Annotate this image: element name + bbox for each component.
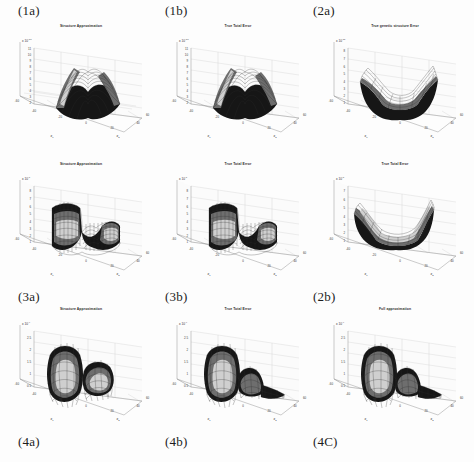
svg-text:-20: -20 [372,115,377,119]
plot-title-4a: Structure Approximation [2,307,160,311]
axes-svg-1b: 11 10 9 8 7 6 5 4 3 2 -60 -40 -20 0 [173,42,309,142]
svg-text:60: 60 [146,113,150,117]
axes-4a: 2.5 2 1.5 1 0.5 -60 -40 -20 0 20 40 60 x… [16,325,152,425]
svg-text:-40: -40 [189,247,194,251]
axes-walls [334,180,456,270]
exp-power: -4 [185,321,187,324]
exp-power: -10 [28,38,31,41]
svg-text:-40: -40 [346,392,351,396]
plot-title-3b: True Total Error [159,162,317,166]
svg-text:10: 10 [185,53,189,57]
svg-text:x1: x1 [50,272,55,276]
svg-text:40: 40 [293,259,297,263]
svg-text:-40: -40 [32,247,37,251]
svg-text:0: 0 [399,259,401,263]
exp-power: -8 [342,176,344,179]
svg-text:40: 40 [293,404,297,408]
svg-text:x2: x2 [430,134,435,138]
axes-3b: 8 7 6 5 4 3 2 1 -60 -40 -20 0 20 40 [173,180,309,280]
exp-power: -7 [28,176,30,179]
svg-text:x1: x1 [207,272,212,276]
svg-text:0: 0 [242,259,244,263]
axes-2a: 8 7 6 5 4 3 2 1 -60 -40 -20 0 20 40 [330,42,466,142]
svg-text:-20: -20 [372,398,377,402]
plot-cell-4a[interactable]: Structure Approximation x 10-4 [2,305,160,442]
svg-text:-40: -40 [32,109,37,113]
svg-text:0: 0 [85,404,87,408]
axes-svg-3b: 8 7 6 5 4 3 2 1 -60 -40 -20 0 20 40 [173,180,309,280]
svg-text:x1: x1 [207,417,212,421]
svg-text:x1: x1 [364,134,369,138]
svg-text:60: 60 [146,251,150,255]
svg-text:60: 60 [146,396,150,400]
svg-text:x1: x1 [364,417,369,421]
svg-text:-40: -40 [346,109,351,113]
svg-text:x2: x2 [116,417,121,421]
plot-cell-2a[interactable]: True genetic structure Error x 10-11 [316,22,474,159]
svg-text:0: 0 [242,121,244,125]
axes-svg-2a: 8 7 6 5 4 3 2 1 -60 -40 -20 0 20 40 [330,42,466,142]
svg-text:-20: -20 [58,398,63,402]
svg-text:x1: x1 [50,134,55,138]
svg-text:60: 60 [460,113,464,117]
axes-svg-1a: 11 10 9 8 7 6 5 4 3 2 -60 -40 -20 0 [16,42,152,142]
svg-text:40: 40 [450,259,454,263]
plot-cell-4b[interactable]: True Total Error x 10-4 [159,305,317,442]
svg-text:11: 11 [28,47,31,51]
axes-4b: 2.5 2 1.5 1 0.5 -60 -40 -20 0 20 40 60 x… [173,325,309,425]
svg-text:-20: -20 [372,253,377,257]
svg-text:40: 40 [450,404,454,408]
plot-title-1a: Structure Approximation [2,24,160,28]
svg-text:x1: x1 [207,134,212,138]
plot-cell-1b[interactable]: True Total Error x 10-10 [159,22,317,159]
plot-title-3a: Structure Approximation [2,162,160,166]
svg-text:x2: x2 [273,134,278,138]
svg-text:x1: x1 [364,272,369,276]
svg-text:x1: x1 [50,417,55,421]
svg-text:x2: x2 [430,417,435,421]
svg-text:20: 20 [110,126,114,130]
svg-text:-60: -60 [329,382,334,386]
svg-text:60: 60 [303,396,307,400]
axes-svg-4c: 2.5 2 1.5 1 0.5 -60 -40 -20 0 20 40 60 x… [330,325,466,425]
svg-text:1.5: 1.5 [341,360,345,364]
svg-text:20: 20 [110,264,114,268]
svg-text:-40: -40 [189,392,194,396]
svg-text:0: 0 [399,404,401,408]
svg-text:2.5: 2.5 [184,336,188,340]
svg-text:60: 60 [460,251,464,255]
svg-text:1: 1 [29,240,31,244]
svg-text:0.5: 0.5 [341,384,345,388]
svg-text:20: 20 [424,264,428,268]
svg-text:0: 0 [399,121,401,125]
svg-text:x2: x2 [273,272,278,276]
svg-text:0.5: 0.5 [184,384,188,388]
svg-text:20: 20 [267,126,271,130]
svg-text:-60: -60 [15,99,20,103]
svg-text:40: 40 [136,259,140,263]
plot-cell-4c[interactable]: Full approximation x 10-4 [316,305,474,442]
svg-text:60: 60 [303,251,307,255]
plot-title-4c: Full approximation [316,307,474,311]
svg-text:60: 60 [460,396,464,400]
exp-power: -10 [185,38,188,41]
svg-text:0: 0 [85,121,87,125]
exp-power: -11 [342,38,345,41]
plot-cell-1a[interactable]: Structure Approximation x 10-10 [2,22,160,159]
svg-text:2.5: 2.5 [27,336,31,340]
plot-cell-3b[interactable]: True Total Error x 10-7 [159,160,317,297]
svg-text:x2: x2 [430,272,435,276]
axes-svg-4a: 2.5 2 1.5 1 0.5 -60 -40 -20 0 20 40 60 x… [16,325,152,425]
svg-text:x2: x2 [116,134,121,138]
plot-grid: Structure Approximation x 10-10 [0,0,474,462]
svg-text:-20: -20 [58,115,63,119]
plot-cell-3a[interactable]: Structure Approximation x 10-7 [2,160,160,297]
exp-power: -4 [28,321,30,324]
svg-text:40: 40 [136,121,140,125]
exp-power: -4 [342,321,344,324]
plot-title-2a: True genetic structure Error [316,24,474,28]
svg-text:-60: -60 [329,99,334,103]
svg-text:-20: -20 [215,398,220,402]
axes-svg-4b: 2.5 2 1.5 1 0.5 -60 -40 -20 0 20 40 60 x… [173,325,309,425]
plot-cell-2b[interactable]: True Total Error x 10-8 [316,160,474,297]
